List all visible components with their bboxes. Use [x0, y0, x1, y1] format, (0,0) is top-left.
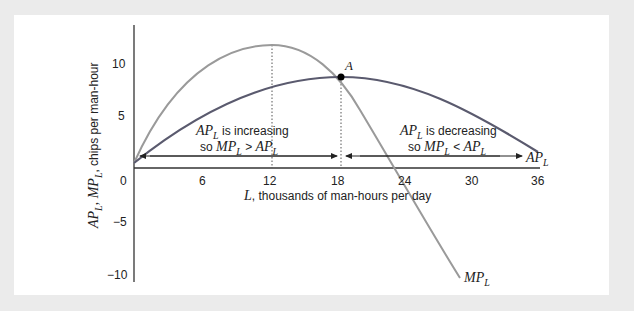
- dec-annotation-line2: so MPL < APL: [408, 139, 487, 157]
- y-axis-title: APL, MPL, chips per man-hour: [86, 62, 104, 229]
- inc-annotation-line1: APL is increasing: [195, 123, 289, 141]
- mp-curve: [134, 45, 460, 278]
- y-tick-5: 5: [118, 109, 125, 123]
- x-tick-24: 24: [398, 174, 412, 188]
- x-tick-6: 6: [199, 174, 206, 188]
- x-tick-0: 0: [120, 174, 127, 188]
- y-tick-10: 10: [112, 57, 126, 71]
- x-tick-18: 18: [331, 174, 345, 188]
- mp-curve-label: MPL: [463, 270, 490, 288]
- x-tick-12: 12: [263, 174, 277, 188]
- x-axis-title: L, thousands of man-hours per day: [243, 188, 431, 203]
- chart-svg: A APL is increasing so MPL > APL APL is …: [0, 0, 634, 311]
- inc-annotation-line2: so MPL > APL: [200, 139, 279, 157]
- point-a-marker: [338, 74, 345, 81]
- x-tick-36: 36: [531, 174, 545, 188]
- y-tick-neg10: −10: [107, 268, 128, 282]
- point-a-label: A: [344, 58, 353, 73]
- y-tick-neg5: −5: [113, 215, 127, 229]
- dec-annotation-line1: APL is decreasing: [399, 123, 497, 141]
- ap-curve-label: APL: [525, 150, 549, 168]
- x-tick-30: 30: [465, 174, 479, 188]
